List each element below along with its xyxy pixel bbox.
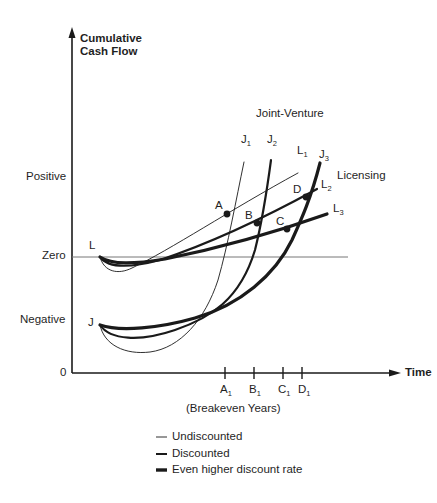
y-level-zero: Zero <box>42 250 66 262</box>
point-d-dot <box>303 194 310 201</box>
legend-undiscounted: Undiscounted <box>172 431 242 443</box>
tick-label-c1: C1 <box>278 384 290 396</box>
tick-label-d1: D1 <box>298 384 310 396</box>
breakeven-caption: (Breakeven Years) <box>186 403 281 415</box>
point-a-label: A <box>215 200 223 212</box>
curve-start-j: J <box>88 317 94 329</box>
curve-label-j2: J2 <box>267 134 277 146</box>
curve-j3-higher-rate <box>100 163 320 329</box>
curve-label-j1: J1 <box>241 134 251 146</box>
curve-start-l: L <box>89 240 95 252</box>
y-level-positive: Positive <box>26 171 66 183</box>
x-axis-arrow-icon <box>389 370 401 377</box>
curve-label-j3: J3 <box>319 149 329 161</box>
curve-label-l1: L1 <box>297 145 308 157</box>
tick-label-b1: B1 <box>249 384 261 396</box>
legend-swatches <box>156 437 167 470</box>
legend-higher-rate: Even higher discount rate <box>172 464 302 476</box>
y-axis-arrow-icon <box>69 27 76 38</box>
point-a-dot <box>224 211 231 218</box>
joint-venture-curves <box>100 160 320 353</box>
y-level-origin: 0 <box>60 367 66 379</box>
joint-venture-label: Joint-Venture <box>256 108 324 120</box>
tick-label-a1: A1 <box>220 384 232 396</box>
curve-j2-discounted <box>100 160 271 338</box>
licensing-label: Licensing <box>337 170 386 182</box>
axes <box>69 27 402 379</box>
point-d-label: D <box>293 184 301 196</box>
x-axis-label: Time <box>405 367 432 379</box>
point-c-dot <box>284 226 291 233</box>
y-axis-label-line1: Cumulative <box>80 33 142 45</box>
point-b-label: B <box>245 210 253 222</box>
curve-label-l2: L2 <box>321 179 332 191</box>
curve-label-l3: L3 <box>333 203 344 215</box>
y-level-negative: Negative <box>20 314 65 326</box>
y-axis-label-line2: Cash Flow <box>80 46 138 58</box>
point-b-dot <box>254 220 261 227</box>
point-c-label: C <box>276 216 284 228</box>
legend-discounted: Discounted <box>172 448 230 460</box>
